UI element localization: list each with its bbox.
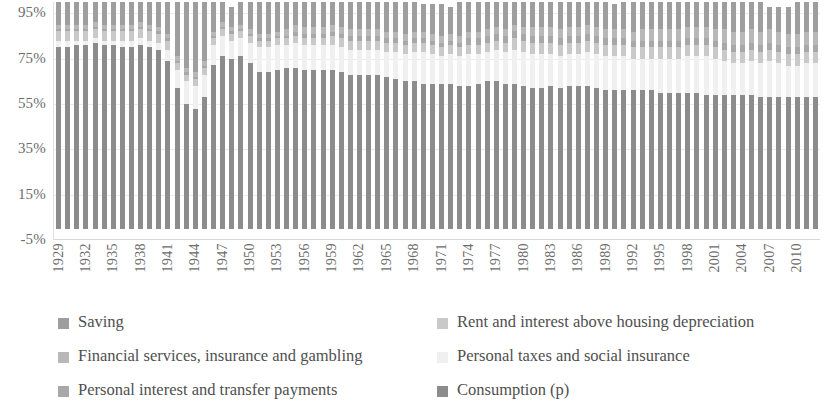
bar-column (330, 2, 335, 229)
legend-item[interactable]: Rent and interest above housing deprecia… (437, 305, 834, 339)
y-axis: 95%75%55%35%15%-5% (0, 0, 52, 248)
bar-segment (667, 29, 672, 40)
bar-segment (102, 45, 107, 229)
bar-segment (640, 41, 645, 48)
bar-segment (621, 2, 626, 29)
bar-segment (603, 2, 608, 29)
bar-segment (421, 52, 426, 84)
bar-segment (713, 95, 718, 229)
bar-segment (503, 43, 508, 52)
bar-segment (375, 2, 380, 29)
bar-segment (65, 47, 70, 228)
legend-column-right: Rent and interest above housing deprecia… (437, 305, 834, 407)
bar-column (649, 2, 654, 229)
bar-segment (311, 45, 316, 70)
x-axis-tick-label: 1959 (325, 243, 339, 273)
bar-segment (722, 61, 727, 95)
legend-item[interactable]: Saving (58, 305, 438, 339)
bar-segment (758, 32, 763, 46)
bar-column (585, 2, 590, 229)
x-axis-tick-label: 1956 (298, 243, 312, 273)
bar-segment (330, 45, 335, 70)
bar-segment (603, 56, 608, 90)
bar-segment (384, 77, 389, 229)
x-axis-tick-label: 1983 (544, 243, 558, 273)
y-axis-tick-label: 75% (18, 51, 46, 66)
bar-segment (740, 32, 745, 46)
bar-segment (704, 45, 709, 56)
bar-column (147, 2, 152, 229)
bar-segment (211, 2, 216, 31)
bar-segment (448, 45, 453, 54)
bar-segment (238, 2, 243, 25)
bar-segment (248, 36, 253, 43)
bar-segment (658, 47, 663, 58)
bar-segment (147, 41, 152, 48)
bar-segment (667, 47, 672, 58)
bar-segment (704, 27, 709, 38)
bar-segment (220, 29, 225, 36)
bar-segment (403, 34, 408, 41)
bar-segment (393, 52, 398, 79)
bar-column (366, 2, 371, 229)
bar-segment (640, 59, 645, 91)
bar-segment (293, 36, 298, 43)
bar-column (93, 2, 98, 229)
bar-column (439, 4, 444, 228)
legend-item[interactable]: Financial services, insurance and gambli… (58, 339, 438, 373)
bar-segment (594, 88, 599, 229)
bar-column (83, 2, 88, 229)
bar-segment (321, 27, 326, 34)
bar-segment (348, 29, 353, 36)
bar-segment (74, 31, 79, 40)
bar-segment (366, 75, 371, 229)
bar-segment (558, 38, 563, 45)
bar-segment (83, 31, 88, 40)
bar-segment (795, 97, 800, 228)
bar-column (466, 2, 471, 229)
bar-segment (229, 34, 234, 41)
legend-item[interactable]: Personal taxes and social insurance (437, 339, 834, 373)
bar-segment (631, 47, 636, 58)
bar-segment (439, 47, 444, 56)
bar-segment (795, 2, 800, 34)
bar-segment (65, 31, 70, 40)
bar-segment (804, 52, 809, 63)
bar-column (156, 2, 161, 229)
bar-segment (631, 90, 636, 228)
bar-segment (722, 95, 727, 229)
bar-segment (594, 54, 599, 88)
bar-segment (585, 34, 590, 41)
bar-segment (476, 2, 481, 31)
bar-segment (585, 52, 590, 86)
bar-column (576, 2, 581, 229)
bar-segment (184, 2, 189, 68)
bar-segment (722, 2, 727, 29)
bar-segment (175, 2, 180, 56)
bar-segment (165, 50, 170, 61)
bar-segment (640, 2, 645, 29)
x-axis-tick-label: 1986 (571, 243, 585, 273)
bar-segment (238, 56, 243, 228)
bar-segment (558, 29, 563, 38)
bar-segment (713, 41, 718, 48)
bar-segment (767, 61, 772, 97)
bar-column (548, 2, 553, 229)
bar-segment (786, 54, 791, 65)
bar-column (758, 2, 763, 229)
bar-segment (421, 84, 426, 229)
bar-segment (448, 34, 453, 41)
legend-item[interactable]: Personal interest and transfer payments (58, 373, 438, 407)
bar-segment (457, 56, 462, 85)
bar-segment (248, 2, 253, 29)
bar-segment (494, 27, 499, 34)
bar-segment (330, 36, 335, 45)
legend-swatch-icon (437, 352, 448, 363)
legend-item[interactable]: Consumption (p) (437, 373, 834, 407)
bar-segment (156, 50, 161, 229)
bar-segment (576, 36, 581, 43)
bar-segment (311, 27, 316, 34)
plot-area (54, 2, 820, 240)
bar-segment (567, 54, 572, 86)
x-axis-tick-label: 1944 (188, 243, 202, 273)
